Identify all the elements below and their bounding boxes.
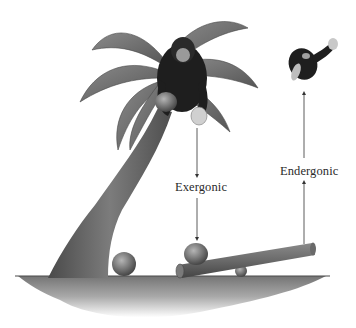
exergonic-label: Exergonic bbox=[175, 180, 227, 194]
fallen-coconut bbox=[112, 252, 136, 276]
illustration-canvas: Exergonic Endergonic bbox=[0, 0, 356, 328]
coconut-on-seesaw bbox=[184, 243, 208, 265]
palm-tree bbox=[48, 21, 258, 278]
endergonic-label: Endergonic bbox=[280, 164, 338, 178]
held-coconut bbox=[155, 92, 177, 112]
flying-chimp bbox=[284, 38, 338, 84]
ground bbox=[15, 276, 330, 317]
held-coconut-2 bbox=[191, 107, 207, 125]
